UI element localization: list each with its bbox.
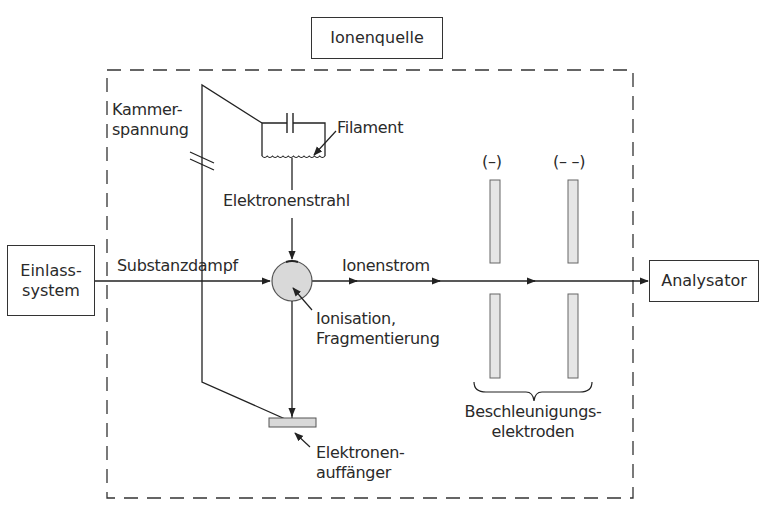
substance-vapor-label: Substanzdampf [117,256,238,276]
diagram-canvas [0,0,767,510]
chamber-voltage-wire-lower [202,281,292,422]
electrode-2-lower [568,294,578,378]
filament-label: Filament [337,118,403,138]
filament-circuit [262,123,287,156]
chamber-voltage-line1: Kammer- [112,100,189,120]
electrode-1-lower [490,294,500,378]
analyzer-label: Analysator [661,271,747,291]
electrode-2-charge: (– –) [553,152,585,172]
inlet-line1: Einlass- [20,261,81,281]
chamber-voltage-wire [202,85,262,281]
analyzer-box: Analysator [649,260,759,302]
electron-collector-label: Elektronen- auffänger [316,443,405,483]
ion-source-title: Ionenquelle [330,28,424,48]
collector-pointer [295,433,310,447]
accel-electrodes-label: Beschleunigungs- elektroden [453,402,613,442]
circle-top-highlight [286,261,298,262]
collector-line2: auffänger [316,463,405,483]
collector-line1: Elektronen- [316,443,405,463]
electron-beam-label: Elektronenstrahl [223,191,350,211]
electrode-2-upper [568,180,578,263]
ion-current-label: Ionenstrom [342,256,430,276]
ionization-line1: Ionisation, [316,309,440,329]
ionization-line2: Fragmentierung [316,329,440,349]
ionization-label: Ionisation, Fragmentierung [316,309,440,349]
filament-circuit [293,123,325,156]
inlet-line2: system [22,281,80,301]
electrode-1-charge: (–) [482,152,502,172]
accel-line1: Beschleunigungs- [453,402,613,422]
ion-source-title-box: Ionenquelle [311,17,443,59]
chamber-voltage-line2: spannung [112,120,189,140]
filament-coil-icon [262,156,325,158]
ionization-chamber [272,261,312,301]
accel-line2: elektroden [453,422,613,442]
inlet-system-box: Einlass- system [7,245,95,316]
electrode-1-upper [490,180,500,263]
chamber-voltage-label: Kammer- spannung [112,100,189,140]
electron-collector-plate [269,418,316,427]
electrodes-brace [474,382,592,401]
